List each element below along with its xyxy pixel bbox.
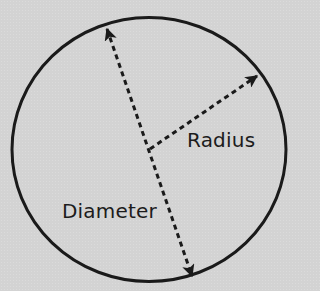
diameter-line <box>107 29 192 276</box>
diagram-canvas <box>0 0 302 291</box>
diameter-label: Diameter <box>62 201 157 221</box>
circle-diagram: Radius Diameter <box>0 0 302 291</box>
radius-label: Radius <box>187 130 255 150</box>
